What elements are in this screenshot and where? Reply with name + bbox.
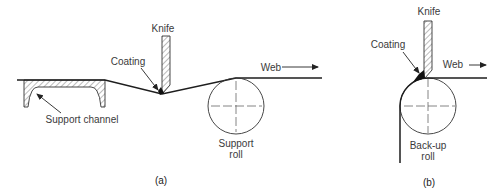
web-label-a: Web xyxy=(261,62,282,73)
knife-label-a: Knife xyxy=(152,23,175,34)
panel-a-caption: (a) xyxy=(155,175,167,186)
knife-label-b: Knife xyxy=(418,6,441,17)
support-channel-shape xyxy=(24,80,105,107)
support-channel-label: Support channel xyxy=(46,114,119,125)
coating-leader-arrow-a xyxy=(141,68,158,90)
backup-roll-label-line2: roll xyxy=(421,151,434,162)
panel-a: Knife Coating Web Support channel Suppor… xyxy=(17,23,322,186)
knife-blade-b xyxy=(424,21,432,78)
coating-label-a: Coating xyxy=(111,56,145,67)
knife-blade-a xyxy=(162,36,170,93)
backup-roll-label-line1: Back-up xyxy=(410,140,447,151)
support-roll-label-line2: roll xyxy=(229,149,242,160)
web-label-b: Web xyxy=(443,59,464,70)
coating-bead-b xyxy=(413,70,425,82)
panel-b: Knife Coating Web Back-up roll (b) xyxy=(371,6,487,188)
coating-leader-arrow-b xyxy=(403,52,419,73)
panel-b-caption: (b) xyxy=(423,177,435,188)
knife-coating-diagram: Knife Coating Web Support channel Suppor… xyxy=(0,0,501,192)
support-roll-label-line1: Support xyxy=(218,138,253,149)
support-channel-leader-arrow xyxy=(37,94,61,113)
coating-label-b: Coating xyxy=(371,39,405,50)
